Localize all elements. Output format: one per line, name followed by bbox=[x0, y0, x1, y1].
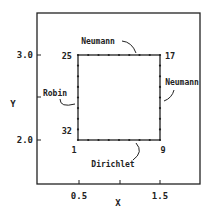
x-axis-label: X bbox=[115, 198, 121, 208]
leader-bottom bbox=[133, 143, 139, 160]
node-label-9: 9 bbox=[160, 145, 165, 155]
boundary-nodes bbox=[77, 54, 161, 141]
y-axis-label: Y bbox=[10, 99, 16, 109]
x-tick-label: 1.5 bbox=[152, 191, 168, 201]
plot-frame bbox=[37, 13, 200, 184]
leader-right bbox=[164, 90, 174, 101]
domain-square bbox=[78, 55, 160, 140]
boundary-label-bottom: Dirichlet bbox=[91, 159, 135, 169]
y-tick-label: 2.0 bbox=[17, 135, 33, 145]
node-label-25: 25 bbox=[62, 51, 72, 61]
boundary-label-left: Robin bbox=[43, 88, 67, 98]
y-tick-label: 3.0 bbox=[17, 50, 33, 60]
boundary-condition-diagram: 0.5 1.5 3.0 2.0 X Y 25 17 32 1 9 Neumann… bbox=[0, 0, 210, 212]
node-label-1: 1 bbox=[71, 145, 76, 155]
leader-left bbox=[60, 99, 75, 105]
boundary-label-top: Neumann bbox=[81, 37, 115, 46]
leader-top bbox=[122, 41, 136, 53]
boundary-label-right: Neumann bbox=[165, 78, 199, 87]
node-label-17: 17 bbox=[165, 51, 175, 61]
node-label-32: 32 bbox=[62, 126, 72, 136]
x-tick-label: 0.5 bbox=[71, 191, 87, 201]
